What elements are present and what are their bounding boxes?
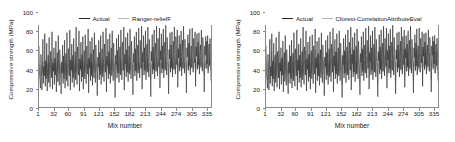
- x-axis-tick-label: 182: [351, 110, 361, 117]
- y-axis-tick-mark: [36, 50, 39, 51]
- legend-swatch-prediction: [118, 18, 129, 19]
- x-axis-tick-label: 305: [414, 110, 424, 117]
- y-axis-tick-mark: [263, 50, 266, 51]
- x-axis-tick-mark: [295, 108, 296, 111]
- series-canvas: [266, 13, 438, 107]
- panel-ranger-relieff: Compressive strength (MPa) 020406080100 …: [0, 0, 227, 142]
- legend-entry-prediction: Ranger-reliefF: [118, 15, 171, 22]
- x-axis-tick-mark: [161, 108, 162, 111]
- x-axis-tick-label: 91: [307, 110, 314, 117]
- plot-area: [265, 12, 439, 108]
- x-axis-tick-mark: [341, 108, 342, 111]
- x-axis-title: Mix number: [38, 122, 212, 129]
- y-axis-tick-mark: [36, 31, 39, 32]
- y-axis-tick-mark: [263, 70, 266, 71]
- x-axis-tick-label: 32: [277, 110, 284, 117]
- x-axis-tick-label: 213: [367, 110, 377, 117]
- x-axis-tick-label: 60: [291, 110, 298, 117]
- y-axis-tick-label: 100: [23, 9, 33, 16]
- y-axis-tick-label: 0: [257, 105, 260, 112]
- x-axis-tick-mark: [192, 108, 193, 111]
- x-axis-tick-label: 305: [187, 110, 197, 117]
- y-axis-tick-label: 20: [26, 85, 33, 92]
- y-axis-tick-label: 40: [26, 66, 33, 73]
- x-axis-tick-mark: [38, 108, 39, 111]
- y-axis-tick-mark: [263, 89, 266, 90]
- y-axis-tick-mark: [263, 31, 266, 32]
- x-axis-tick-mark: [434, 108, 435, 111]
- x-axis-tick-label: 121: [321, 110, 331, 117]
- panel-cforest-correlationattributeeval: Compressive strength (MPa) 020406080100 …: [227, 0, 454, 142]
- x-axis-tick-mark: [54, 108, 55, 111]
- x-axis-tick-mark: [68, 108, 69, 111]
- series-canvas: [39, 13, 211, 107]
- x-axis-tick-mark: [99, 108, 100, 111]
- legend: Actual Ranger-reliefF: [38, 12, 212, 25]
- legend-entry-actual: Actual: [79, 15, 109, 22]
- x-axis-tick-mark: [130, 108, 131, 111]
- y-axis-tick-label: 100: [250, 9, 260, 16]
- legend-label-prediction: Ranger-reliefF: [132, 15, 171, 22]
- legend-label-prediction: Cforest-CorrelationAttributeEval: [335, 15, 421, 22]
- x-axis-tick-label: 274: [171, 110, 181, 117]
- x-axis-tick-mark: [326, 108, 327, 111]
- x-axis-tick-label: 1: [263, 110, 266, 117]
- legend-entry-actual: Actual: [282, 15, 312, 22]
- y-axis-tick-mark: [36, 70, 39, 71]
- y-axis-tick-label: 60: [26, 47, 33, 54]
- y-axis-tick-labels: 020406080100: [243, 12, 263, 108]
- x-axis-tick-label: 335: [202, 110, 212, 117]
- legend-swatch-prediction: [322, 18, 333, 19]
- x-axis-tick-label: 152: [336, 110, 346, 117]
- plot-area: [38, 12, 212, 108]
- x-axis-tick-label: 60: [64, 110, 71, 117]
- x-axis-tick-mark: [114, 108, 115, 111]
- x-axis-tick-label: 274: [398, 110, 408, 117]
- y-axis-tick-label: 40: [253, 66, 260, 73]
- x-axis-tick-label: 213: [140, 110, 150, 117]
- x-axis-tick-mark: [357, 108, 358, 111]
- x-axis-tick-mark: [388, 108, 389, 111]
- x-axis-tick-label: 121: [94, 110, 104, 117]
- x-axis-tick-label: 1: [36, 110, 39, 117]
- x-axis-tick-mark: [145, 108, 146, 111]
- x-axis-tick-label: 182: [124, 110, 134, 117]
- y-axis-tick-labels: 020406080100: [16, 12, 36, 108]
- y-axis-tick-label: 0: [30, 105, 33, 112]
- y-axis-tick-label: 60: [253, 47, 260, 54]
- x-axis-tick-label: 91: [80, 110, 87, 117]
- x-axis-tick-label: 32: [50, 110, 57, 117]
- x-axis-tick-mark: [372, 108, 373, 111]
- x-axis-tick-mark: [84, 108, 85, 111]
- y-axis-tick-label: 80: [26, 28, 33, 35]
- x-axis-tick-mark: [176, 108, 177, 111]
- legend-entry-prediction: Cforest-CorrelationAttributeEval: [322, 15, 422, 22]
- y-axis-tick-label: 80: [253, 28, 260, 35]
- series-line-actual: [39, 25, 211, 97]
- x-axis-tick-label: 152: [109, 110, 119, 117]
- legend-label-actual: Actual: [296, 15, 313, 22]
- legend-label-actual: Actual: [93, 15, 110, 22]
- x-axis-tick-label: 335: [429, 110, 439, 117]
- x-axis-tick-mark: [265, 108, 266, 111]
- legend-swatch-actual: [282, 18, 293, 19]
- figure-two-panel-line-charts: Compressive strength (MPa) 020406080100 …: [0, 0, 455, 142]
- x-axis-tick-mark: [419, 108, 420, 111]
- x-axis-tick-mark: [311, 108, 312, 111]
- x-axis-tick-label: 244: [156, 110, 166, 117]
- x-axis-title: Mix number: [265, 122, 439, 129]
- x-axis-tick-label: 244: [383, 110, 393, 117]
- legend: Actual Cforest-CorrelationAttributeEval: [265, 12, 439, 25]
- x-axis-tick-mark: [281, 108, 282, 111]
- y-axis-tick-label: 20: [253, 85, 260, 92]
- x-axis-tick-labels: 1326091121152182213244274305335: [265, 110, 439, 122]
- y-axis-tick-mark: [36, 89, 39, 90]
- x-axis-tick-mark: [403, 108, 404, 111]
- x-axis-tick-mark: [207, 108, 208, 111]
- legend-swatch-actual: [79, 18, 90, 19]
- x-axis-tick-labels: 1326091121152182213244274305335: [38, 110, 212, 122]
